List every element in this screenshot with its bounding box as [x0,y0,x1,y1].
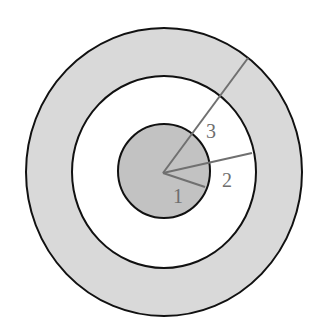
concentric-circles-diagram: 1 2 3 [0,0,314,336]
radius-label-3: 3 [206,120,216,142]
radius-label-1: 1 [173,185,183,207]
radius-label-2: 2 [222,169,232,191]
